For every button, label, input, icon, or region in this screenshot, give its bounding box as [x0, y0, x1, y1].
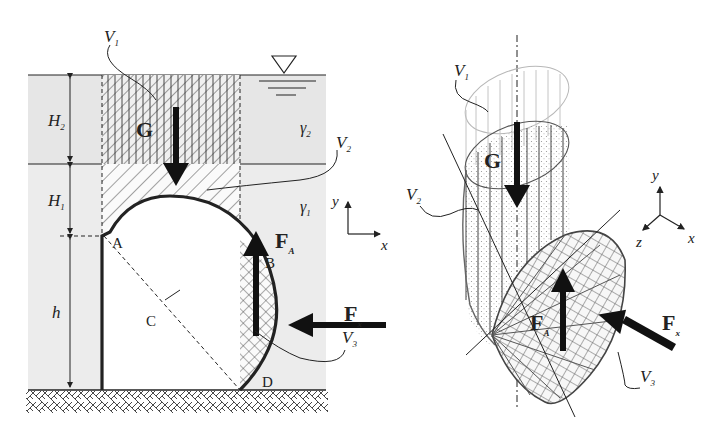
label-Fx-3d: Fx: [662, 310, 680, 338]
right-coordinate-axes: [643, 187, 684, 230]
ground-hatch: [26, 391, 328, 413]
label-axis-x-right: x: [687, 230, 695, 246]
left-figure: V1 V2 V3 G FA Fx H2 H1 h γ2 γ1 A B C D y…: [26, 27, 388, 413]
left-coordinate-axes: [348, 202, 380, 234]
label-point-C: C: [146, 313, 156, 329]
label-axis-y-right: y: [650, 167, 659, 183]
label-axis-x-left: x: [380, 237, 388, 253]
label-V2: V2: [336, 133, 351, 154]
right-figure: V1 V2 V3 G FA Fx y z x: [406, 35, 695, 417]
label-G-3d: G: [484, 148, 501, 173]
label-point-A: A: [112, 235, 123, 251]
label-V1-3d: V1: [454, 61, 469, 82]
label-h: h: [52, 303, 61, 322]
label-G: G: [136, 117, 153, 142]
label-V1: V1: [104, 27, 119, 48]
label-point-D: D: [262, 374, 273, 390]
label-V3-3d: V3: [640, 367, 655, 388]
label-V2-3d: V2: [406, 185, 421, 206]
label-point-B: B: [265, 255, 275, 271]
hydrostatic-force-diagram: V1 V2 V3 G FA Fx H2 H1 h γ2 γ1 A B C D y…: [0, 0, 721, 441]
label-V3: V3: [342, 328, 357, 349]
label-axis-z-right: z: [635, 234, 642, 250]
label-Fx: Fx: [344, 301, 362, 329]
label-axis-y-left: y: [330, 193, 339, 209]
